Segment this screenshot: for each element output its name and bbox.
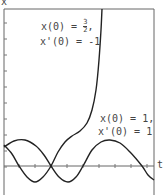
annotation-periodic-line1: x(0) = 1,: [100, 113, 154, 125]
annotation-blowup-line1: x(0) = 32,: [41, 19, 93, 34]
annotation-blowup-prefix: x(0) =: [41, 21, 83, 32]
curve-blowup: [4, 9, 102, 182]
x-axis-label: t: [157, 159, 163, 171]
y-axis-label: x: [1, 0, 7, 8]
annotation-periodic-line2: x'(0) = 1: [98, 126, 152, 138]
annotation-blowup-line2: x'(0) = -1: [40, 36, 100, 48]
